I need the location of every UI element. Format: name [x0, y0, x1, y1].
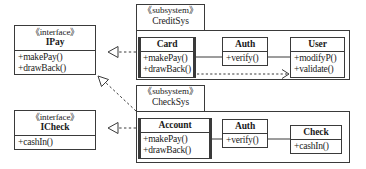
user-name-compartment: User	[291, 38, 344, 52]
class-box-user[interactable]: User +modifyP() +validate()	[290, 37, 345, 78]
class-box-check-auth[interactable]: Auth +verify()	[222, 119, 268, 148]
check-auth-operation: +verify()	[226, 135, 267, 146]
account-name-compartment: Account	[140, 119, 210, 133]
class-box-account[interactable]: Account +makePay() +drawBack()	[138, 118, 212, 159]
class-box-check[interactable]: Check +cashIn()	[290, 125, 342, 154]
credit-auth-name-compartment: Auth	[223, 38, 267, 52]
check-operation: +cashIn()	[294, 141, 341, 152]
subsystem-tab-checksys[interactable]: 《subsystem》 CheckSys	[136, 85, 205, 112]
account-class-name: Account	[142, 120, 208, 131]
ipay-name-compartment: 《interface》 IPay	[15, 26, 95, 51]
interface-box-icheck[interactable]: 《interface》 ICheck +cashIn()	[14, 110, 96, 150]
subsystem-name-creditsys: CreditSys	[137, 16, 204, 26]
subsystem-stereotype-checksys: 《subsystem》	[137, 87, 204, 97]
class-box-credit-auth[interactable]: Auth +verify()	[222, 37, 268, 66]
user-operation: +validate()	[294, 64, 344, 75]
credit-auth-class-name: Auth	[225, 39, 265, 50]
card-operation: +drawBack()	[143, 64, 194, 75]
icheck-stereotype: 《interface》	[17, 112, 93, 122]
icheck-name-compartment: 《interface》 ICheck	[15, 111, 95, 136]
ipay-operation: +makePay()	[18, 52, 95, 63]
check-auth-class-name: Auth	[225, 121, 265, 132]
icheck-operations: +cashIn()	[15, 136, 95, 149]
subsystem-tab-creditsys[interactable]: 《subsystem》 CreditSys	[136, 4, 205, 31]
user-class-name: User	[293, 39, 342, 50]
user-operation: +modifyP()	[294, 53, 344, 64]
ipay-operation: +drawBack()	[18, 63, 95, 74]
interface-box-ipay[interactable]: 《interface》 IPay +makePay() +drawBack()	[14, 25, 96, 75]
card-name-compartment: Card	[140, 38, 194, 52]
check-name-compartment: Check	[291, 126, 341, 140]
check-class-name: Check	[293, 127, 339, 138]
subsystem-name-checksys: CheckSys	[137, 97, 204, 107]
check-operations: +cashIn()	[291, 140, 341, 153]
realization-creditsys-ipay	[108, 47, 136, 58]
ipay-class-name: IPay	[17, 37, 93, 48]
check-auth-operations: +verify()	[223, 134, 267, 147]
icheck-operation: +cashIn()	[18, 137, 95, 148]
icheck-class-name: ICheck	[17, 122, 93, 133]
ipay-stereotype: 《interface》	[17, 27, 93, 37]
subsystem-stereotype-creditsys: 《subsystem》	[137, 6, 204, 16]
check-auth-name-compartment: Auth	[223, 120, 267, 134]
account-operations: +makePay() +drawBack()	[140, 133, 210, 157]
uml-class-diagram: 《subsystem》 CreditSys 《subsystem》 CheckS…	[0, 0, 366, 169]
card-operation: +makePay()	[143, 53, 194, 64]
ipay-operations: +makePay() +drawBack()	[15, 51, 95, 75]
user-operations: +modifyP() +validate()	[291, 52, 344, 76]
credit-auth-operation: +verify()	[226, 53, 267, 64]
realization-checksys-ipay	[98, 76, 136, 111]
card-class-name: Card	[142, 39, 192, 50]
account-operation: +drawBack()	[143, 145, 210, 156]
realization-checksys-icheck	[108, 123, 136, 134]
card-operations: +makePay() +drawBack()	[140, 52, 194, 76]
class-box-card[interactable]: Card +makePay() +drawBack()	[138, 37, 196, 78]
account-operation: +makePay()	[143, 134, 210, 145]
credit-auth-operations: +verify()	[223, 52, 267, 65]
